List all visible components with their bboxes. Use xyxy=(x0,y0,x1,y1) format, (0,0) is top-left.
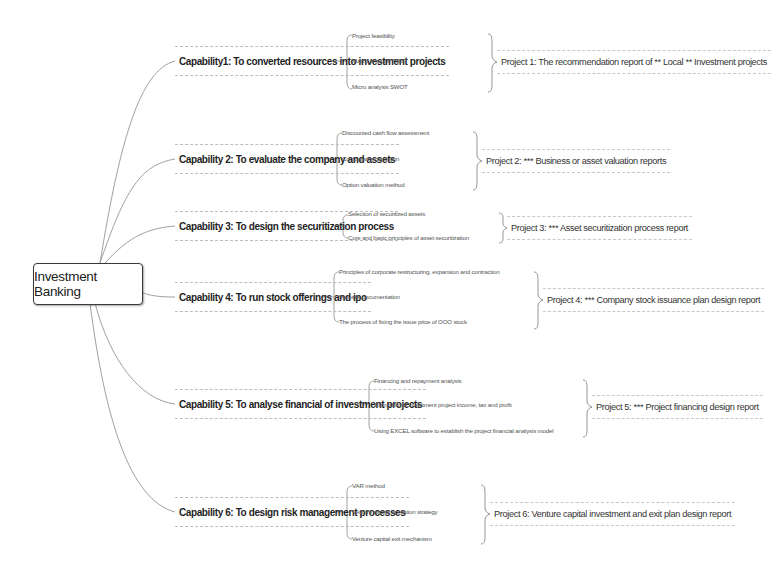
project-label: Project 5: *** Project financing design … xyxy=(596,402,759,412)
sub-item: Release documentation xyxy=(339,293,400,300)
project-node-6[interactable]: Project 6: Venture capital investment an… xyxy=(490,502,735,526)
sub-item: The process of fixing the issue price of… xyxy=(339,318,467,325)
sub-item: Macro analysis PEST xyxy=(352,57,407,64)
project-node-5[interactable]: Project 5: *** Project financing design … xyxy=(592,395,763,419)
sub-item: Selection of securitized assets xyxy=(348,210,425,217)
sub-item: Discounted cash flow assessment xyxy=(342,129,429,136)
capability-node-1[interactable]: Capability1: To converted resources into… xyxy=(175,46,449,76)
project-label: Project 1: The recommendation report of … xyxy=(501,57,767,67)
sub-item: VAR method xyxy=(352,482,385,489)
project-node-2[interactable]: Project 2: *** Business or asset valuati… xyxy=(482,149,670,173)
project-node-4[interactable]: Project 4: *** Company stock issuance pl… xyxy=(543,288,764,312)
sub-item: Principles of corporate restructuring, e… xyxy=(339,268,500,275)
project-node-3[interactable]: Project 3: *** Asset securitization proc… xyxy=(507,216,692,240)
sub-item: Core and basic principles of asset secur… xyxy=(348,234,469,241)
sub-item: Using EXCEL software to establish the pr… xyxy=(374,427,553,434)
project-label: Project 4: *** Company stock issuance pl… xyxy=(547,295,760,305)
project-label: Project 2: *** Business or asset valuati… xyxy=(486,156,666,166)
sub-item: Comparative valuation xyxy=(342,155,399,162)
sub-item: Project feasibility xyxy=(352,32,395,39)
sub-item: Financing and repayment analysis xyxy=(374,377,462,384)
sub-item: Estimating of investment project income,… xyxy=(374,401,512,408)
project-node-1[interactable]: Project 1: The recommendation report of … xyxy=(497,50,771,74)
project-label: Project 6: Venture capital investment an… xyxy=(494,509,731,519)
capability-label: Capability 3: To design the securitizati… xyxy=(179,221,394,232)
sub-item: Venture capital operation strategy xyxy=(352,508,437,515)
root-node-label: Investment Banking xyxy=(34,269,142,299)
sub-item: Option valuation method xyxy=(342,181,404,188)
project-label: Project 3: *** Asset securitization proc… xyxy=(511,223,688,233)
root-node-investment-banking[interactable]: Investment Banking xyxy=(33,263,143,305)
sub-item: Venture capital exit mechanism xyxy=(352,535,432,542)
sub-item: Micro analysis SWOT xyxy=(352,83,408,90)
